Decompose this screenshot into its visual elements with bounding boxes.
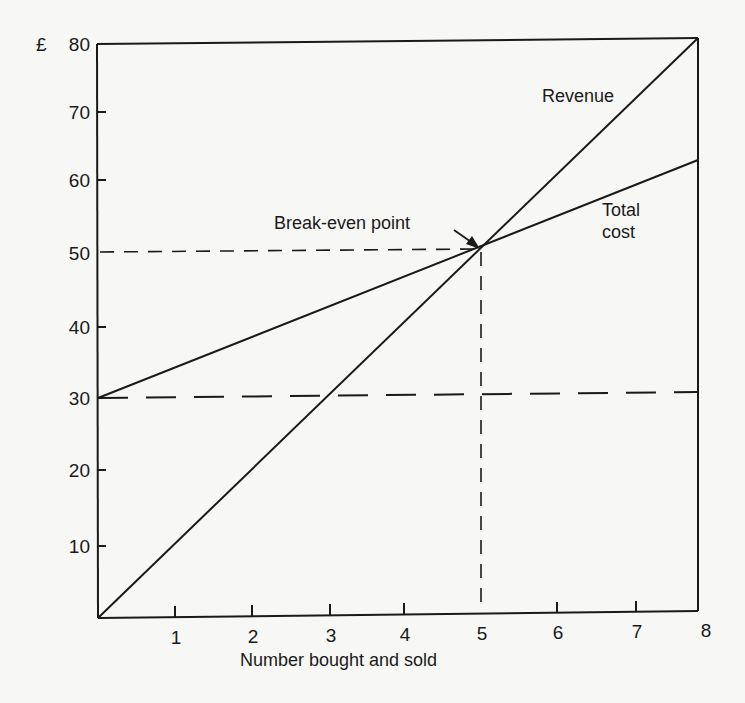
y-tick-70: 70 (50, 103, 90, 122)
y-axis (97, 44, 98, 618)
currency-label: £ (36, 35, 47, 54)
y-tick-10: 10 (50, 537, 90, 556)
x-tick-2: 2 (243, 627, 263, 646)
break-even-label: Break-even point (274, 214, 410, 232)
revenue-line (98, 38, 698, 618)
y-tick-80: 80 (50, 35, 90, 54)
y-tick-40: 40 (50, 318, 90, 337)
total-cost-label-line1: Total (602, 201, 640, 219)
x-tick-7: 7 (627, 622, 647, 641)
x-axis (98, 611, 698, 618)
y-tick-20: 20 (50, 461, 90, 480)
x-tick-1: 1 (166, 628, 186, 647)
y-tick-60: 60 (50, 171, 90, 190)
y-tick-30: 30 (50, 389, 90, 408)
break-even-arrow-icon (454, 230, 480, 249)
x-tick-3: 3 (321, 626, 341, 645)
x-axis-title: Number bought and sold (240, 651, 437, 669)
total-cost-line (98, 160, 698, 398)
top-border (97, 38, 698, 44)
break-even-horizontal-guide (100, 249, 478, 252)
break-even-chart (0, 0, 745, 703)
total-cost-label-line2: cost (602, 223, 635, 241)
x-tick-6: 6 (548, 623, 568, 642)
y-tick-50: 50 (50, 244, 90, 263)
revenue-label: Revenue (542, 87, 614, 105)
x-tick-8: 8 (696, 621, 716, 640)
x-tick-5: 5 (472, 624, 492, 643)
x-tick-4: 4 (395, 625, 415, 644)
fixed-cost-line (98, 392, 698, 398)
